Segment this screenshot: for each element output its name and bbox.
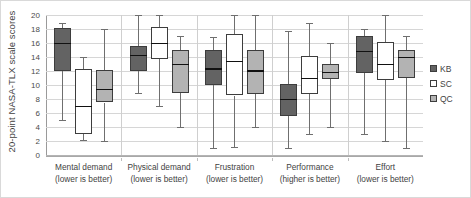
box-plot-box	[280, 15, 297, 155]
y-axis-tick-label: 8	[36, 95, 40, 104]
lower-whisker-cap	[403, 148, 410, 149]
upper-whisker	[309, 23, 310, 55]
lower-whisker	[364, 73, 365, 134]
upper-whisker-cap	[177, 36, 184, 37]
box-plot-box	[226, 15, 243, 155]
upper-whisker	[364, 29, 365, 36]
box-iqr-rect	[54, 28, 71, 71]
lower-whisker	[288, 116, 289, 148]
box-plot-box	[322, 15, 339, 155]
box-plot-chart: 20-point NASA-TLX scale scores 201816141…	[0, 0, 471, 198]
box-iqr-rect	[130, 46, 147, 71]
legend-item-sc[interactable]: SC	[430, 76, 470, 91]
lower-whisker	[159, 59, 160, 106]
legend-swatch-icon	[430, 65, 437, 72]
box-plot-box	[54, 15, 71, 155]
box-iqr-rect	[356, 36, 373, 73]
upper-whisker	[104, 29, 105, 70]
y-axis-title-container: 20-point NASA-TLX scale scores	[1, 1, 23, 161]
category-label-line1: Effort	[375, 162, 395, 172]
median-line	[301, 78, 318, 79]
group-separator	[197, 15, 198, 155]
lower-whisker	[138, 71, 139, 93]
upper-whisker	[288, 31, 289, 84]
y-axis-tick-label: 6	[36, 109, 40, 118]
y-axis-tick-label: 12	[31, 67, 40, 76]
lower-whisker-cap	[156, 106, 163, 107]
category-label-line2: (lower is better)	[46, 174, 121, 186]
lower-whisker	[213, 85, 214, 148]
upper-whisker-cap	[80, 57, 87, 58]
group-separator	[121, 15, 122, 155]
x-axis-tick-mark	[121, 158, 122, 161]
x-axis-tick-mark	[348, 158, 349, 161]
box-plot-box	[172, 15, 189, 155]
y-axis-tick-label: 14	[31, 53, 40, 62]
y-axis-tick-label: 16	[31, 39, 40, 48]
upper-whisker	[330, 43, 331, 64]
upper-whisker	[385, 15, 386, 42]
median-line	[54, 43, 71, 44]
box-plot-box	[130, 15, 147, 155]
y-axis-tick-label: 20	[31, 11, 40, 20]
y-axis-tick-label: 0	[36, 151, 40, 160]
box-iqr-rect	[75, 69, 92, 134]
upper-whisker-cap	[327, 43, 334, 44]
upper-whisker-cap	[306, 23, 313, 24]
lower-whisker-cap	[306, 134, 313, 135]
lower-whisker-cap	[59, 120, 66, 121]
upper-whisker-cap	[361, 29, 368, 30]
box-iqr-rect	[226, 34, 243, 96]
median-line	[356, 51, 373, 52]
x-axis-tick-mark	[272, 158, 273, 161]
upper-whisker-cap	[285, 31, 292, 32]
category-label-line1: Physical demand	[127, 162, 190, 172]
lower-whisker	[406, 78, 407, 148]
lower-whisker-cap	[382, 141, 389, 142]
lower-whisker	[180, 93, 181, 127]
lower-whisker-cap	[177, 127, 184, 128]
x-axis-category-labels: Mental demand(lower is better)Physical d…	[46, 158, 423, 198]
legend-label: SC	[440, 79, 452, 89]
lower-whisker	[330, 79, 331, 127]
legend-item-kb[interactable]: KB	[430, 61, 470, 76]
group-separator	[348, 15, 349, 155]
category-label-line1: Frustration	[215, 162, 255, 172]
box-plot-box	[96, 15, 113, 155]
box-plot-box	[151, 15, 168, 155]
legend-label: KB	[440, 64, 451, 74]
median-line	[322, 72, 339, 73]
lower-whisker-cap	[231, 147, 238, 148]
box-iqr-rect	[96, 70, 113, 102]
box-plot-box	[377, 15, 394, 155]
upper-whisker	[406, 36, 407, 50]
lower-whisker	[62, 71, 63, 120]
upper-whisker-cap	[252, 15, 259, 16]
upper-whisker-cap	[382, 15, 389, 16]
legend-swatch-icon	[430, 95, 437, 102]
upper-whisker	[138, 15, 139, 46]
lower-whisker-cap	[252, 127, 259, 128]
upper-whisker	[180, 36, 181, 50]
box-plot-box	[301, 15, 318, 155]
upper-whisker	[83, 57, 84, 69]
category-label-line1: Performance	[286, 162, 334, 172]
lower-whisker	[104, 103, 105, 142]
x-axis-category-label: Performance(higher is better)	[272, 162, 347, 185]
category-label-line1: Mental demand	[55, 162, 112, 172]
box-plot-box	[205, 15, 222, 155]
plot-area	[46, 15, 423, 155]
y-axis-title: 20-point NASA-TLX scale scores	[7, 10, 18, 152]
lower-whisker-cap	[135, 93, 142, 94]
x-axis-category-label: Mental demand(lower is better)	[46, 162, 121, 185]
legend-swatch-icon	[430, 80, 437, 87]
median-line	[75, 106, 92, 107]
median-line	[172, 64, 189, 65]
category-label-line2: (lower is better)	[197, 174, 272, 186]
median-line	[130, 55, 147, 56]
legend-item-qc[interactable]: QC	[430, 91, 470, 106]
median-line	[205, 68, 222, 69]
median-line	[247, 70, 264, 71]
lower-whisker-cap	[101, 141, 108, 142]
box-iqr-rect	[172, 50, 189, 93]
